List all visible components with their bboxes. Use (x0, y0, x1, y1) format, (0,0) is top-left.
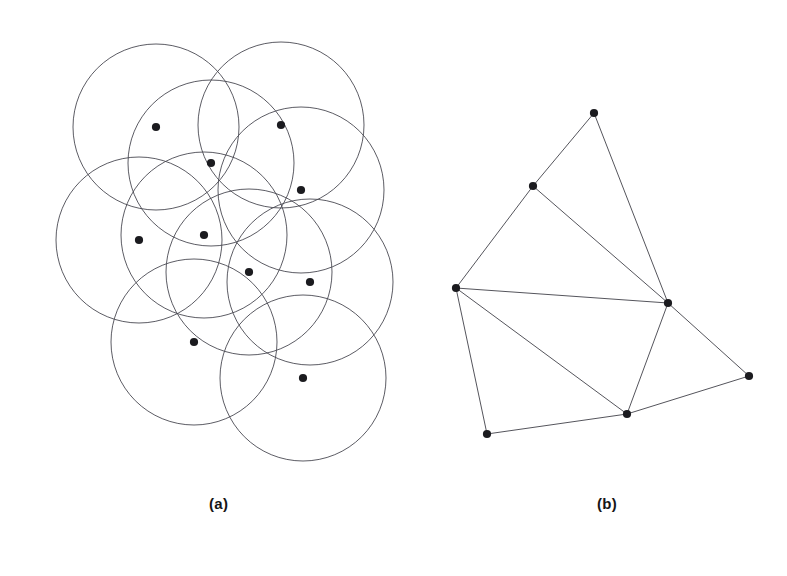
graph-vertex (590, 109, 598, 117)
graph-edge (594, 113, 668, 303)
caption-panel-a: (a) (209, 495, 228, 512)
graph-edge (533, 113, 594, 186)
caption-panel-b: (b) (597, 495, 617, 512)
graph-vertex (529, 182, 537, 190)
panel-b-graph (0, 0, 787, 576)
graph-vertex (452, 284, 460, 292)
graph-vertex (745, 372, 753, 380)
graph-edge (456, 288, 627, 414)
graph-edge-group (456, 113, 749, 434)
graph-edge (456, 288, 668, 303)
panel-b-canvas (0, 0, 787, 576)
graph-vertex (483, 430, 491, 438)
figure-root: (a) (b) (0, 0, 787, 576)
graph-edge (627, 376, 749, 414)
graph-edge (668, 303, 749, 376)
graph-edge (627, 303, 668, 414)
graph-edge (456, 186, 533, 288)
graph-vertex (623, 410, 631, 418)
graph-vertex (664, 299, 672, 307)
graph-edge (456, 288, 487, 434)
graph-edge (487, 414, 627, 434)
graph-edge (533, 186, 668, 303)
